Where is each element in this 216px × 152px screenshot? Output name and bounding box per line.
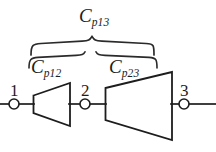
label-cp13-subscript: p13 <box>92 16 110 28</box>
label-cp12: Cp12 <box>31 57 61 76</box>
label-cp13-base: C <box>79 5 92 26</box>
brace-cp13-icon <box>31 37 154 56</box>
label-cp23: Cp23 <box>109 57 139 76</box>
node-1-terminal <box>9 99 19 109</box>
label-cp13: Cp13 <box>79 6 109 25</box>
node-3-label: 3 <box>180 82 189 99</box>
label-cp12-subscript: p12 <box>44 67 62 79</box>
node-2-terminal <box>80 99 90 109</box>
figure-canvas: Cp13 Cp12 Cp23 1 2 3 <box>0 0 216 152</box>
node-2-label: 2 <box>81 82 90 99</box>
label-cp23-base: C <box>109 56 122 77</box>
trapezoid-cp23 <box>106 72 173 140</box>
label-cp12-base: C <box>31 56 44 77</box>
label-cp23-subscript: p23 <box>122 67 140 79</box>
node-3-terminal <box>179 99 189 109</box>
node-1-label: 1 <box>10 82 19 99</box>
trapezoid-cp12 <box>34 83 71 126</box>
